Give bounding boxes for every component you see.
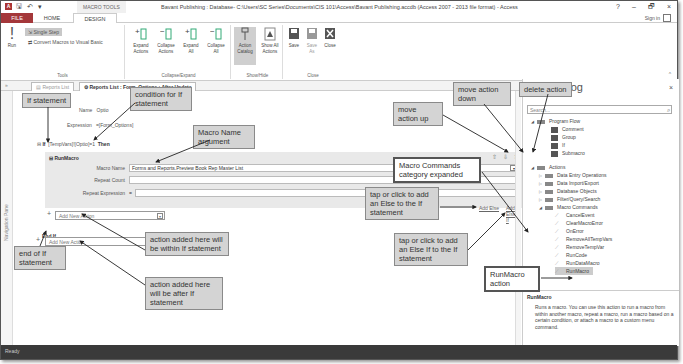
expand-all-icon: + xyxy=(185,27,197,41)
help-button[interactable]: ? xyxy=(616,1,620,13)
tree-item-group[interactable]: Group xyxy=(531,133,612,141)
move-up-icon[interactable]: ⇧ xyxy=(492,153,497,160)
single-step-label: Single Step xyxy=(33,29,59,35)
run-icon: ! xyxy=(6,27,18,41)
if-block-header[interactable]: ⊟ If [TempVars]![Optio]=1 Then xyxy=(37,141,110,147)
tree-label: Data Import/Export xyxy=(557,180,599,186)
runmacro-header[interactable]: ⊟ RunMacro xyxy=(49,155,79,161)
svg-text:−: − xyxy=(160,27,165,36)
convert-macros-button[interactable]: ⇄ Convert Macros to Visual Basic xyxy=(28,39,103,45)
window-title: Bavant Publishing : Database- C:\Users\S… xyxy=(161,1,518,13)
customize-qat-icon[interactable]: ▾ xyxy=(38,3,45,10)
save-icon[interactable]: 🖫 xyxy=(16,3,23,10)
tree-item-action[interactable]: ⟋OnError xyxy=(531,227,612,235)
tab-home[interactable]: HOME xyxy=(37,13,67,23)
group-tools: ! Run ⇲ Single Step ⇄ Convert Macros to … xyxy=(1,25,125,79)
sign-in[interactable]: Sign in xyxy=(645,14,671,22)
folder-icon xyxy=(545,174,553,178)
repeat-expression-field[interactable] xyxy=(135,189,519,197)
tree-item-action[interactable]: ⟋RemoveAllTempVars xyxy=(531,235,612,243)
label: Actions xyxy=(134,49,149,54)
catalog-divider xyxy=(523,290,679,291)
close-macro-button[interactable]: Close xyxy=(322,27,338,49)
chevron-down-icon[interactable]: ▾ xyxy=(157,213,163,219)
label: Expand xyxy=(183,43,198,48)
tree-node-macro-commands[interactable]: ◢Macro Commands xyxy=(531,203,612,211)
tree-item-submacro[interactable]: Submacro xyxy=(531,149,612,157)
action-catalog-button[interactable]: ActionCatalog xyxy=(234,27,256,65)
runmacro-title: RunMacro xyxy=(54,155,78,161)
tree-item-action[interactable]: ⟋RunDataMacro xyxy=(531,259,612,267)
save-as-button[interactable]: SaveAs xyxy=(304,27,320,54)
undo-icon[interactable]: ↶ xyxy=(27,3,34,10)
name-property: Name Optio xyxy=(79,107,108,113)
save-button[interactable]: Save xyxy=(286,27,302,49)
add-else-link[interactable]: Add Else xyxy=(479,205,499,211)
single-step-button[interactable]: ⇲ Single Step xyxy=(25,28,62,36)
expand-actions-button[interactable]: + ExpandActions xyxy=(129,27,153,54)
tree-node-category[interactable]: ▷Filter/Query/Search xyxy=(531,195,612,203)
add-new-action-inner[interactable]: Add New Action ▾ xyxy=(55,211,165,220)
callout-after-if: action added here will be after If state… xyxy=(145,277,223,310)
designer-scrollbar[interactable] xyxy=(515,91,521,346)
group-label-tools: Tools xyxy=(1,73,124,78)
label: Save xyxy=(289,43,299,48)
tree-node-program-flow[interactable]: ◢Program Flow xyxy=(531,117,612,125)
action-icon: ⟋ xyxy=(555,243,563,251)
close-icon xyxy=(324,27,336,41)
move-down-icon[interactable]: ⇩ xyxy=(503,153,508,160)
tree-node-category[interactable]: ▷Data Import/Export xyxy=(531,179,612,187)
action-icon: ⟋ xyxy=(555,267,563,275)
close-button[interactable]: × xyxy=(667,1,671,13)
group-icon xyxy=(551,135,558,141)
label: Actions xyxy=(263,49,278,54)
tree-node-category[interactable]: ▷Data Entry Operations xyxy=(531,171,612,179)
navigation-pane[interactable]: Navigation Pane xyxy=(1,91,13,346)
run-button[interactable]: ! Run xyxy=(5,27,19,49)
tree-label: Comment xyxy=(562,126,584,132)
tree-item-runmacro[interactable]: ⟋RunMacro xyxy=(555,267,593,275)
add-action-plus-icon: + xyxy=(36,236,40,243)
tree-item-action[interactable]: ⟋RemoveTempVar xyxy=(531,243,612,251)
tree-label: RemoveTempVar xyxy=(566,244,604,250)
tree-label: Actions xyxy=(549,164,565,170)
expand-all-button[interactable]: + ExpandAll xyxy=(179,27,203,54)
tree-item-comment[interactable]: Comment xyxy=(531,125,612,133)
tree-label: Group xyxy=(562,134,576,140)
group-collapse-expand: + ExpandActions − CollapseActions + Expa… xyxy=(127,25,231,79)
sign-in-label[interactable]: Sign in xyxy=(645,15,660,21)
label: Catalog xyxy=(237,49,253,54)
if-condition[interactable]: [TempVars]![Optio]=1 xyxy=(48,141,95,147)
save-icon xyxy=(288,27,300,41)
action-icon: ⟋ xyxy=(555,219,563,227)
catalog-search-input[interactable]: Search... ⌕ xyxy=(527,105,672,114)
doc-tab-reports-list[interactable]: ▤ Reports List xyxy=(31,82,74,91)
collapse-actions-button[interactable]: − CollapseActions xyxy=(154,27,178,54)
close-icon[interactable]: × xyxy=(669,84,673,91)
repeat-expression-label: Repeat Expression xyxy=(55,190,125,196)
tree-item-action[interactable]: ⟋ClearMacroError xyxy=(531,219,612,227)
tree-label: Filter/Query/Search xyxy=(557,196,600,202)
catalog-description-title: RunMacro xyxy=(527,294,551,300)
tree-node-actions[interactable]: ◢Actions xyxy=(531,163,612,171)
tree-item-action[interactable]: ⟋CancelEvent xyxy=(531,211,612,219)
add-action-plus-icon: + xyxy=(47,210,51,217)
folder-icon xyxy=(537,120,545,124)
search-icon[interactable]: ⌕ xyxy=(667,106,670,114)
tree-item-action[interactable]: ⟋RunCode xyxy=(531,251,612,259)
tree-node-category[interactable]: ▷Database Objects xyxy=(531,187,612,195)
minimize-button[interactable]: – xyxy=(632,1,636,13)
add-new-action-outer[interactable]: Add New Action ▾ xyxy=(45,237,155,246)
tab-file[interactable]: FILE xyxy=(1,13,33,23)
access-logo-icon: A xyxy=(5,3,12,10)
collapse-ribbon-icon[interactable]: ^ xyxy=(669,71,671,77)
tree-item-if[interactable]: If xyxy=(531,141,612,149)
restore-button[interactable]: 🗗 xyxy=(648,1,655,13)
collapse-all-button[interactable]: − CollapseAll xyxy=(204,27,228,54)
catalog-tree: ◢Program Flow Comment Group If Submacro … xyxy=(531,117,612,275)
callout-end-if: end of If statement xyxy=(14,246,66,270)
shutter-bar-icon[interactable]: » xyxy=(5,82,8,88)
callout-if-statement: If statement xyxy=(22,93,71,108)
label: All xyxy=(213,49,218,54)
show-all-actions-button[interactable]: Show AllActions xyxy=(258,27,282,54)
